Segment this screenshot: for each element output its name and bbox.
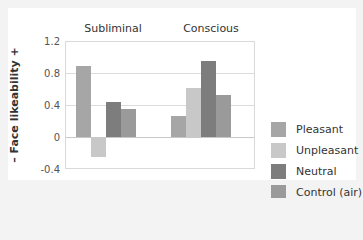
legend-swatch <box>271 122 286 137</box>
bar-subliminal-control-air <box>121 109 136 137</box>
legend-item-neutral: Neutral <box>271 161 362 182</box>
plot-area <box>65 41 255 169</box>
group-label-subliminal: Subliminal <box>84 22 142 35</box>
bar-subliminal-pleasant <box>76 66 91 137</box>
bar-conscious-pleasant <box>171 116 186 137</box>
legend-label: Neutral <box>296 165 337 178</box>
group-label-conscious: Conscious <box>183 22 239 35</box>
legend-label: Pleasant <box>296 123 343 136</box>
legend-item-control: Control (air) <box>271 182 362 198</box>
gridline <box>66 73 254 74</box>
legend-swatch <box>271 164 286 179</box>
legend-swatch <box>271 185 286 198</box>
legend-label: Control (air) <box>296 186 362 198</box>
bar-conscious-unpleasant <box>186 88 201 137</box>
y-tick: 1.2 <box>22 36 60 47</box>
y-axis-label: – Face likeability + <box>8 47 21 163</box>
legend-label: Unpleasant <box>296 144 358 157</box>
legend: Pleasant Unpleasant Neutral Control (air… <box>271 119 362 198</box>
legend-item-pleasant: Pleasant <box>271 119 362 140</box>
y-tick: 0 <box>22 132 60 143</box>
bar-conscious-neutral <box>201 61 216 137</box>
bar-conscious-control-air <box>216 95 231 137</box>
bar-subliminal-unpleasant <box>91 138 106 157</box>
y-tick: -0.4 <box>22 164 60 175</box>
bar-subliminal-neutral <box>106 102 121 137</box>
legend-swatch <box>271 143 286 158</box>
y-tick: 0.8 <box>22 68 60 79</box>
y-tick: 0.4 <box>22 100 60 111</box>
legend-item-unpleasant: Unpleasant <box>271 140 362 161</box>
